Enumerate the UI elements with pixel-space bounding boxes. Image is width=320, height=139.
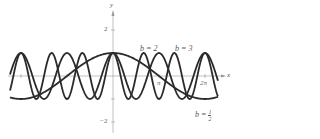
ytick-neg2: −2 — [100, 118, 107, 125]
label-bhalf: b = 1 2 — [195, 109, 211, 122]
xtick-pi: π — [157, 80, 161, 87]
label-b2: b = 2 — [140, 45, 157, 53]
label-b3: b = 3 — [175, 45, 192, 53]
x-axis-label: x — [227, 72, 230, 79]
y-axis — [111, 10, 115, 133]
y-axis-label: y — [110, 2, 113, 9]
xtick-2pi: 2π — [200, 80, 207, 87]
ytick-2: 2 — [104, 26, 108, 33]
